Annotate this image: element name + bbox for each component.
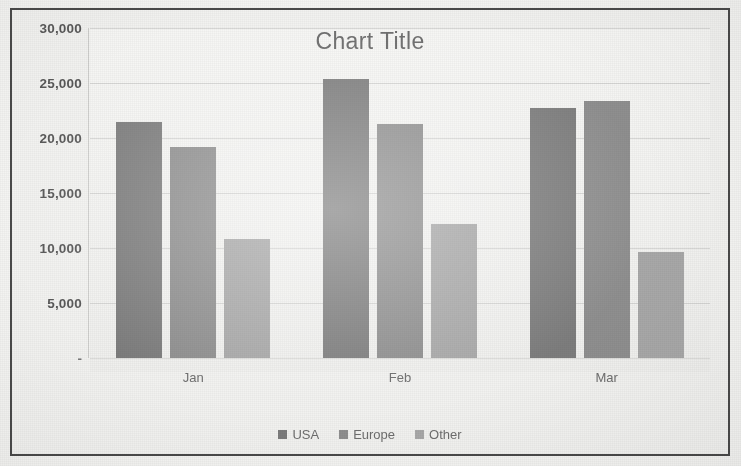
bar-usa-mar[interactable]	[530, 108, 576, 358]
legend-swatch-icon	[339, 430, 348, 439]
legend-swatch-icon	[278, 430, 287, 439]
bar-europe-mar[interactable]	[584, 101, 630, 358]
legend-swatch-icon	[415, 430, 424, 439]
plot-area: 30,00025,00020,00015,00010,0005,000- Jan…	[12, 10, 728, 454]
x-axis-category-label-jan: Jan	[183, 370, 204, 385]
bar-other-feb[interactable]	[431, 224, 477, 358]
bar-other-mar[interactable]	[638, 252, 684, 358]
x-axis-category-label-feb: Feb	[389, 370, 411, 385]
legend-label: USA	[292, 427, 319, 442]
x-axis-category-label-mar: Mar	[595, 370, 617, 385]
y-axis-tick-label: 30,000	[12, 21, 82, 36]
y-axis-tick-label: 5,000	[12, 296, 82, 311]
gridline	[90, 28, 710, 29]
x-axis-baseline	[90, 358, 710, 359]
legend-item-europe[interactable]: Europe	[339, 427, 395, 442]
y-axis-tick-label: 25,000	[12, 76, 82, 91]
bar-europe-jan[interactable]	[170, 147, 216, 358]
y-axis-tick-label: 20,000	[12, 131, 82, 146]
gridline	[90, 83, 710, 84]
legend-item-usa[interactable]: USA	[278, 427, 319, 442]
bar-usa-jan[interactable]	[116, 122, 162, 359]
legend-item-other[interactable]: Other	[415, 427, 462, 442]
chart-legend: USAEuropeOther	[12, 427, 728, 442]
bar-other-jan[interactable]	[224, 239, 270, 358]
y-axis-tick-label: 10,000	[12, 241, 82, 256]
bar-usa-feb[interactable]	[323, 79, 369, 358]
y-axis-spine	[88, 28, 89, 358]
chart-frame: Chart Title 30,00025,00020,00015,00010,0…	[10, 8, 730, 456]
legend-label: Europe	[353, 427, 395, 442]
legend-label: Other	[429, 427, 462, 442]
y-axis-tick-label: 15,000	[12, 186, 82, 201]
bar-europe-feb[interactable]	[377, 124, 423, 358]
scanned-page: Chart Title 30,00025,00020,00015,00010,0…	[0, 0, 741, 466]
y-axis-tick-label: -	[78, 351, 83, 366]
